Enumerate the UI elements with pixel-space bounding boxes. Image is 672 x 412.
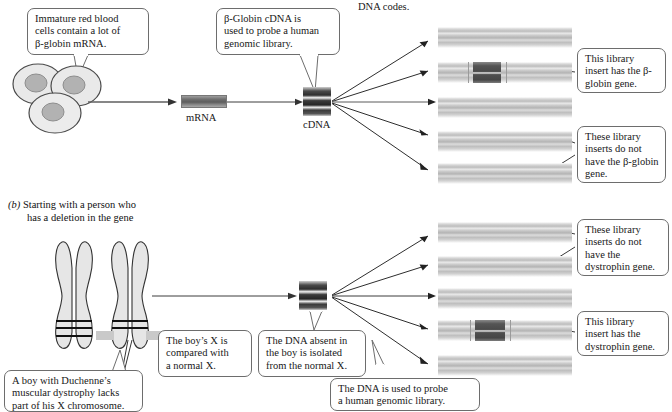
- panel-b-line-2: has a deletion in the gene: [27, 212, 136, 225]
- callout-line: muscular dystrophy lacks: [12, 387, 136, 399]
- callout-line: The DNA is used to probe: [338, 383, 473, 395]
- chromosome-pair-icon: [56, 242, 164, 372]
- callout-line: globin gene.: [585, 78, 659, 90]
- callout-line: part of his X chromosome.: [12, 400, 136, 412]
- callout-line: gene.: [585, 168, 659, 180]
- callout-line: have the β-globin: [585, 156, 659, 168]
- callout-line: inserts do not: [585, 143, 659, 155]
- callout-line: These library: [585, 131, 659, 143]
- panel-b-label: (b) Starting with a person who has a del…: [8, 199, 136, 224]
- library-insert: [438, 27, 572, 48]
- arrow-mrna-to-cdna: [227, 99, 303, 105]
- callout-line: These library: [585, 224, 662, 236]
- callout-has-bglobin-gene: This library insert has the β- globin ge…: [577, 48, 666, 93]
- callout-line: from the normal X.: [266, 360, 359, 372]
- panel-b-line-1: Starting with a person who: [23, 199, 136, 210]
- library-insert: [438, 97, 572, 118]
- cdna-label: cDNA: [303, 119, 330, 130]
- leader-lines-panel-b: [546, 228, 575, 332]
- callout-line: a normal X.: [166, 360, 245, 372]
- cdna-blot: [303, 87, 331, 116]
- callout-line: dystrophin gene.: [585, 341, 662, 353]
- callout-line: have the: [585, 249, 662, 261]
- arrow-fan-panel-a: [332, 41, 436, 170]
- gene-band: [473, 62, 501, 83]
- callout-line: a human genomic library.: [338, 395, 473, 407]
- library-insert: [438, 222, 572, 243]
- callout-has-dystrophin-gene: This library insert has the dystrophin g…: [577, 311, 669, 356]
- arrow-chromosomes-to-blot: [152, 293, 297, 299]
- callout-line: The boy’s X is: [166, 335, 245, 347]
- callout-line: the boy is isolated: [266, 347, 359, 359]
- callout-no-dystrophin-gene: These library inserts do not have the dy…: [577, 219, 669, 276]
- library-insert: [438, 320, 572, 341]
- library-insert: [438, 355, 572, 376]
- mrna-label: mRNA: [186, 112, 216, 123]
- mrna-band: [181, 95, 227, 108]
- callout-dna-isolated: The DNA absent in the boy is isolated fr…: [258, 330, 366, 377]
- callout-line: A boy with Duchenne’s: [12, 375, 136, 387]
- callout-line: The DNA absent in: [266, 335, 359, 347]
- arrow-cells-to-mrna: [88, 99, 177, 106]
- leader-lines-panel-a: [545, 68, 575, 172]
- library-insert: [438, 288, 572, 309]
- dna-blot: [299, 281, 327, 310]
- callout-line: compared with: [166, 347, 245, 359]
- callout-line: inserts do not: [585, 236, 662, 248]
- library-insert: [438, 163, 572, 184]
- library-insert: [438, 256, 572, 277]
- callout-line: insert has the β-: [585, 65, 659, 77]
- callout-line: insert has the: [585, 328, 662, 340]
- callout-line: This library: [585, 53, 659, 65]
- panel-b-marker: (b): [8, 199, 20, 210]
- library-insert: [438, 131, 572, 152]
- callout-line: dystrophin gene.: [585, 261, 662, 273]
- gene-band: [475, 320, 505, 341]
- red-blood-cells-icon: [13, 64, 101, 133]
- callout-no-bglobin-gene: These library inserts do not have the β-…: [577, 126, 666, 183]
- callout-duchenne-boy: A boy with Duchenne’s muscular dystrophy…: [4, 370, 143, 412]
- callout-compared-normal-x: The boy’s X is compared with a normal X.: [158, 330, 252, 377]
- callout-line: This library: [585, 316, 662, 328]
- callout-dna-probe-library: The DNA is used to probe a human genomic…: [330, 378, 480, 411]
- library-insert: [438, 62, 572, 83]
